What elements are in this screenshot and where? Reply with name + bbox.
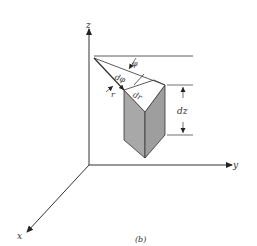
x-axis-label: x [17,231,22,241]
dz-label: dz [177,106,188,116]
x-axis [27,165,89,232]
y-axis-label: y [232,160,239,170]
z-axis-label: z [85,20,91,30]
figure-caption: (b) [135,235,146,244]
phi-label: φ [132,59,138,68]
wedge-top-edge [94,58,165,85]
dphi-label: dφ [114,73,128,85]
cylindrical-volume-element-diagram: z y x φ dφ r dr dz (b) [0,0,257,246]
r-label: r [111,90,116,99]
volume-element [124,80,165,158]
dphi-arc [134,74,144,85]
